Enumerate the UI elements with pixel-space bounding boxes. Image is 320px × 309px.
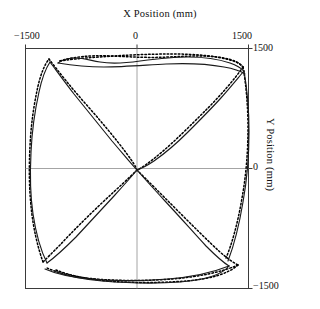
x-tick-label-max: 1500 — [232, 30, 252, 41]
y-tick-label-max: 1500 — [253, 42, 273, 53]
trajectory-figure: X Position (mm) Y Position (mm) −1500 0 … — [0, 0, 320, 309]
x-tick-label-min: −1500 — [14, 30, 40, 41]
y-tick-label-mid: 0 — [253, 161, 258, 172]
y-tick-label-min: −1500 — [253, 280, 279, 291]
x-tick-label-mid: 0 — [133, 30, 138, 41]
y-axis-title: Y Position (mm) — [265, 118, 276, 228]
axis-tick-marks — [26, 45, 253, 289]
x-axis-title: X Position (mm) — [0, 8, 320, 19]
